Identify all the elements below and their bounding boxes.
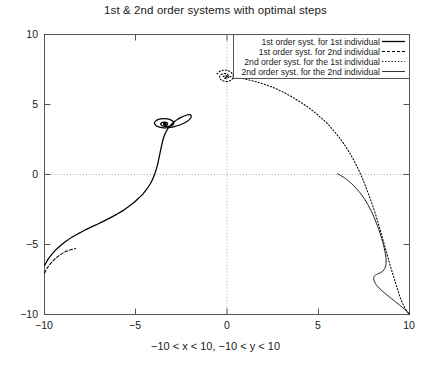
legend-label-3: 2nd order syst. for the 2nd individual xyxy=(234,67,380,77)
x-axis-label: −10 < x < 10, −10 < y < 10 xyxy=(0,340,431,352)
ytick-label-10: 10 xyxy=(4,28,38,40)
xtick-label-5: 5 xyxy=(298,319,338,331)
curve-series-1 xyxy=(45,249,76,274)
curve-series-0 xyxy=(45,115,192,266)
legend-label-2: 2nd order syst. for the 1st individual xyxy=(234,57,380,67)
xtick-label-0: 0 xyxy=(207,319,247,331)
legend-label-0: 1st order syst. for 1st individual xyxy=(234,37,380,47)
xtick-label-10: 10 xyxy=(389,319,429,331)
xtick-label-neg10: −10 xyxy=(24,319,64,331)
xtick-label-neg5: −5 xyxy=(115,319,155,331)
legend-label-1: 1st order syst. for 2nd individual xyxy=(234,47,380,57)
curve-series-3 xyxy=(337,174,409,315)
ytick-label-neg5: −5 xyxy=(4,238,38,250)
curve-series-2 xyxy=(217,70,410,314)
ytick-label-0: 0 xyxy=(4,168,38,180)
ytick-label-5: 5 xyxy=(4,98,38,110)
chart-figure: 1st & 2nd order systems with optimal ste… xyxy=(0,0,431,367)
